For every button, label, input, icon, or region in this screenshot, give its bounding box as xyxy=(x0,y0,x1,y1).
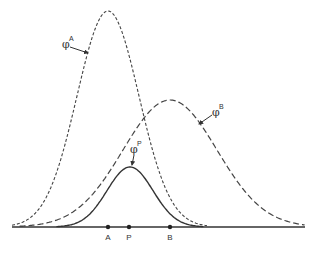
phi-a-superscript: A xyxy=(69,35,74,42)
curve-phi-a xyxy=(12,11,207,226)
annotation-phi-a: φ A xyxy=(62,35,88,53)
phi-p-superscript: P xyxy=(137,140,142,147)
arrow-icon xyxy=(70,47,88,53)
point-label-b: B xyxy=(167,233,172,242)
point-marker-a xyxy=(106,225,110,229)
point-label-p: P xyxy=(126,233,131,242)
curve-phi-p xyxy=(56,167,203,227)
point-label-a: A xyxy=(105,233,111,242)
point-marker-b xyxy=(168,225,172,229)
annotation-phi-b: φ B xyxy=(199,103,224,124)
annotation-phi-p: φ P xyxy=(130,140,142,165)
curve-phi-b xyxy=(20,100,305,226)
arrow-icon xyxy=(199,115,212,124)
point-marker-p xyxy=(127,225,131,229)
phi-b-superscript: B xyxy=(219,103,224,110)
distribution-chart: A P B φ A φ B φ P xyxy=(0,0,323,255)
arrow-icon xyxy=(132,155,134,165)
